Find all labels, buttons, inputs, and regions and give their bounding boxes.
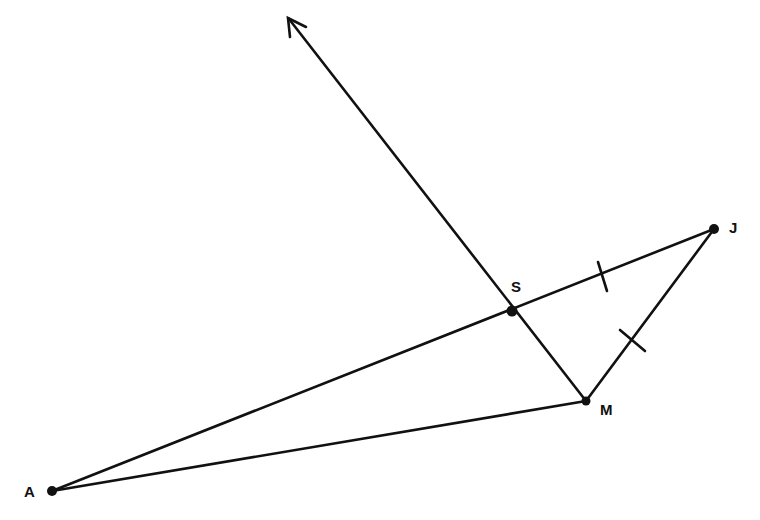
label-j: J	[729, 219, 737, 236]
geometry-diagram: A S J M	[0, 0, 760, 520]
ray-ms	[289, 19, 586, 401]
point-m	[582, 397, 591, 406]
label-m: M	[600, 401, 613, 418]
tick-mark-sj	[598, 262, 607, 291]
diagram-svg	[0, 0, 760, 520]
point-s	[507, 306, 518, 317]
segment-aj	[52, 229, 714, 491]
segment-am	[52, 401, 586, 491]
point-a	[47, 486, 57, 496]
label-a: A	[24, 483, 35, 500]
tick-mark-mj	[620, 330, 645, 351]
label-s: S	[511, 278, 521, 295]
point-j	[709, 224, 719, 234]
